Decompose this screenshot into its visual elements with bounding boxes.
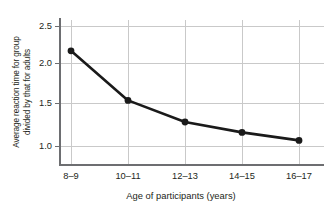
series-markers bbox=[68, 47, 303, 143]
data-point bbox=[68, 47, 75, 54]
series-line bbox=[71, 51, 299, 141]
data-series bbox=[0, 0, 328, 212]
data-point bbox=[125, 97, 132, 104]
chart-figure: Average reaction time for group divided … bbox=[0, 0, 328, 212]
data-point bbox=[239, 129, 246, 136]
data-point bbox=[182, 119, 189, 126]
data-point bbox=[296, 137, 303, 144]
